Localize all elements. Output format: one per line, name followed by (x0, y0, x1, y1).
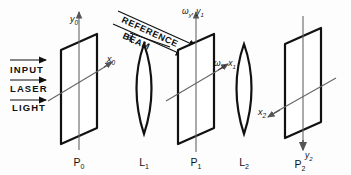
element-labels: P0 L1 P1 L2 P2 (74, 156, 306, 172)
plane-P0 (48, 12, 112, 150)
svg-text:x2: x2 (257, 107, 267, 119)
optical-system-diagram: INPUT LASER LIGHT y0 x0 REFERENCE BEAM θ (0, 0, 351, 175)
input-beam-label: INPUT LASER LIGHT (10, 64, 48, 113)
element-label-P1: P1 (191, 156, 202, 170)
element-label-P2: P2 (295, 158, 306, 172)
svg-text:y2: y2 (304, 150, 313, 162)
angle-symbol: θ (127, 33, 131, 42)
axis-x2-sub: 2 (262, 112, 267, 119)
axis-label-y2: y2 (304, 150, 313, 162)
axis-label-x0: x0 (106, 54, 116, 66)
element-label-P0: P0 (74, 156, 85, 170)
axis-y0-sub: 0 (75, 19, 79, 26)
axis-label-p1-vertical: ωy, y1 (182, 6, 204, 18)
input-label-line-0: INPUT (10, 64, 44, 75)
axis-y2-sub: 2 (308, 156, 313, 162)
plane-P2 (268, 16, 336, 150)
lens-L1 (137, 44, 152, 134)
element-label-L2: L2 (239, 156, 249, 170)
svg-text:ωy, y1: ωy, y1 (182, 6, 204, 18)
plane-P1 (166, 12, 228, 152)
input-label-line-1: LASER (10, 83, 48, 94)
svg-text:y0: y0 (69, 14, 79, 26)
element-label-L1: L1 (139, 156, 149, 170)
axis-p1h-tail-sub: 1 (233, 64, 236, 70)
svg-text:ωx, x1: ωx, x1 (214, 58, 236, 70)
axis-p1v-tail-sub: 1 (201, 12, 204, 18)
axis-label-y0: y0 (69, 14, 79, 26)
lens-L2 (237, 44, 252, 134)
axis-label-x2: x2 (257, 107, 267, 119)
input-label-line-2: LIGHT (12, 102, 46, 113)
svg-text:x0: x0 (106, 54, 116, 66)
figure-canvas: INPUT LASER LIGHT y0 x0 REFERENCE BEAM θ (0, 0, 351, 175)
axis-x0-sub: 0 (112, 59, 116, 66)
axis-label-p1-horizontal: ωx, x1 (214, 58, 236, 70)
